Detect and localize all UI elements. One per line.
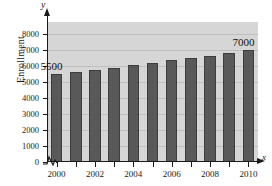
value-annotation: 5500 bbox=[41, 60, 63, 72]
x-axis-tick bbox=[114, 162, 115, 167]
y-axis-tick-label: 3000 bbox=[0, 110, 39, 119]
y-axis-tick-label: 2000 bbox=[0, 126, 39, 135]
x-axis-tick-label: 2008 bbox=[190, 169, 230, 179]
enrollment-bar-chart: Enrollment y x 0100020003000400050006000… bbox=[0, 0, 272, 186]
x-axis-tick bbox=[191, 162, 192, 167]
y-axis-arrow-icon bbox=[44, 8, 50, 16]
x-axis-tick bbox=[210, 162, 211, 167]
x-axis-arrow-icon bbox=[257, 158, 265, 164]
x-axis-tick-label: 2000 bbox=[37, 169, 77, 179]
bar bbox=[70, 72, 82, 162]
x-axis-tick-label: 2006 bbox=[152, 169, 192, 179]
gridline bbox=[47, 34, 258, 35]
bar bbox=[89, 70, 101, 162]
x-axis-tick bbox=[172, 162, 173, 167]
y-axis-tick-label: 0 bbox=[0, 158, 39, 167]
x-axis-tick bbox=[133, 162, 134, 167]
y-axis-tick-label: 8000 bbox=[0, 30, 39, 39]
bar bbox=[223, 53, 235, 162]
x-axis-tick bbox=[76, 162, 77, 167]
x-axis-tick bbox=[153, 162, 154, 167]
x-axis-tick bbox=[229, 162, 230, 167]
y-axis-tick-label: 4000 bbox=[0, 94, 39, 103]
bar bbox=[108, 68, 120, 162]
y-axis-line bbox=[47, 14, 48, 162]
y-axis-tick-label: 6000 bbox=[0, 62, 39, 71]
value-annotation: 7000 bbox=[232, 36, 254, 48]
gridline bbox=[47, 50, 258, 51]
x-axis-tick-label: 2004 bbox=[113, 169, 153, 179]
bar bbox=[128, 65, 140, 162]
x-axis-tick-label: 2010 bbox=[228, 169, 268, 179]
bar bbox=[204, 56, 216, 162]
y-axis-tick-label: 7000 bbox=[0, 46, 39, 55]
bar bbox=[185, 58, 197, 162]
y-axis-tick-label: 5000 bbox=[0, 78, 39, 87]
axis-break-icon bbox=[41, 150, 61, 166]
x-axis-tick bbox=[248, 162, 249, 167]
bar bbox=[166, 60, 178, 162]
bar bbox=[51, 74, 63, 162]
x-axis-tick bbox=[95, 162, 96, 167]
bar bbox=[147, 63, 159, 162]
x-axis-tick bbox=[57, 162, 58, 167]
y-axis-tick-label: 1000 bbox=[0, 142, 39, 151]
x-axis-tick-label: 2002 bbox=[75, 169, 115, 179]
plot-area bbox=[47, 22, 258, 162]
bar bbox=[243, 50, 255, 162]
